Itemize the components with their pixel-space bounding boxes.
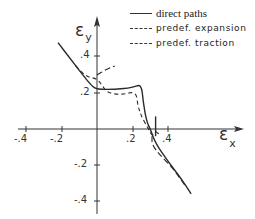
solid-line-swatch-icon (130, 13, 152, 14)
legend-item-predef-expansion: predef. expansion (130, 21, 246, 36)
y-axis-label: εy (75, 20, 91, 40)
y-tick-label: -.2 (74, 158, 87, 169)
y-tick-label: .4 (80, 49, 90, 60)
legend-label: predef. expansion (156, 21, 246, 36)
x-tick-label: .4 (162, 133, 172, 144)
y-axis-label-sub: y (85, 31, 92, 44)
x-tick-label: -.4 (14, 133, 27, 144)
x-axis-label: εx (219, 124, 235, 144)
series-direct-paths (58, 43, 191, 194)
legend-item-predef-traction: predef. traction (130, 36, 246, 51)
legend-label: predef. traction (156, 36, 235, 51)
series-predef-traction (97, 66, 115, 75)
y-tick-label: -.4 (74, 194, 87, 205)
y-axis-label-main: ε (75, 20, 84, 40)
legend: direct paths predef. expansion predef. t… (130, 6, 246, 51)
dashed-line-swatch-icon (130, 28, 152, 29)
x-axis-label-main: ε (219, 124, 228, 144)
y-tick-label: .2 (80, 86, 90, 97)
series-predef-expansion (76, 66, 159, 135)
legend-label: direct paths (156, 6, 207, 21)
x-axis-label-sub: x (229, 137, 236, 150)
series-layer (58, 43, 191, 194)
legend-item-direct-paths: direct paths (130, 6, 246, 21)
x-tick-label: -.2 (50, 133, 63, 144)
long-dashed-line-swatch-icon (130, 43, 152, 44)
x-tick-label: .2 (126, 133, 136, 144)
